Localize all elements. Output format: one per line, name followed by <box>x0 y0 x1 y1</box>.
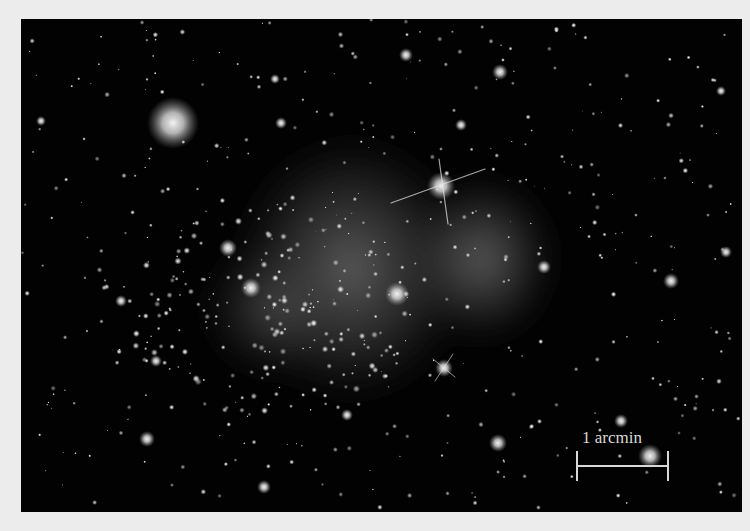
astronomical-image: 1 arcmin <box>21 19 742 512</box>
diffuse-emission <box>201 134 556 404</box>
scale-bar: 1 arcmin <box>576 427 670 482</box>
scale-bar-right-tick <box>667 451 669 481</box>
scale-bar-line <box>577 465 668 467</box>
scale-bar-label: 1 arcmin <box>582 428 642 448</box>
